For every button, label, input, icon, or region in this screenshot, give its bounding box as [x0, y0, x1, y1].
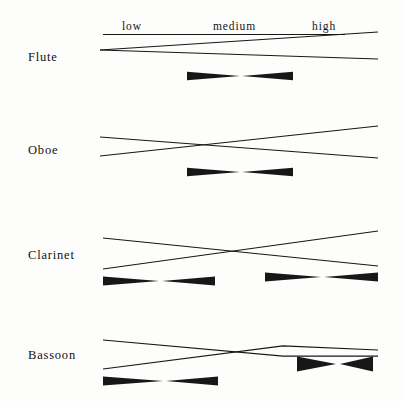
- woodwind-range-diagram: low medium high Flute Oboe: [0, 0, 403, 401]
- instrument-group-bassoon: Bassoon: [28, 340, 378, 385]
- register-header-high: high: [312, 20, 336, 33]
- clarinet-high-wedge-right: [324, 273, 378, 282]
- instrument-label-flute: Flute: [28, 50, 58, 64]
- clarinet-lower-envelope: [103, 231, 378, 269]
- register-header-low: low: [122, 20, 142, 32]
- clarinet-low-wedge-right: [162, 277, 215, 286]
- instrument-label-bassoon: Bassoon: [28, 348, 76, 362]
- instrument-group-oboe: Oboe: [28, 126, 378, 176]
- flute-bowtie-medium: [187, 72, 293, 80]
- flute-lower-envelope: [100, 50, 378, 59]
- register-header-group: low medium high: [103, 20, 345, 35]
- clarinet-upper-envelope: [103, 238, 378, 266]
- instrument-label-clarinet: Clarinet: [28, 248, 75, 262]
- oboe-upper-envelope: [100, 137, 378, 158]
- oboe-lower-envelope: [100, 126, 378, 156]
- bassoon-high-wedge-left: [297, 357, 336, 372]
- clarinet-low-wedge-left: [103, 277, 159, 286]
- register-header-medium: medium: [213, 20, 256, 32]
- bassoon-bowtie-high: [297, 357, 373, 372]
- bassoon-lower-envelope: [103, 346, 378, 369]
- clarinet-high-wedge-left: [265, 273, 321, 282]
- bassoon-low-wedge-left: [103, 377, 163, 386]
- bassoon-low-wedge-right: [166, 377, 218, 386]
- oboe-wedge-right: [242, 168, 293, 176]
- oboe-bowtie-medium: [187, 168, 293, 176]
- oboe-wedge-left: [187, 168, 240, 176]
- instrument-group-flute: Flute: [28, 32, 378, 80]
- clarinet-bowtie-high: [265, 273, 378, 282]
- flute-wedge-right: [242, 72, 293, 80]
- instrument-label-oboe: Oboe: [28, 143, 58, 157]
- bassoon-high-wedge-right: [340, 357, 373, 372]
- clarinet-bowtie-low: [103, 277, 215, 286]
- figure-canvas: low medium high Flute Oboe: [0, 0, 403, 401]
- flute-wedge-left: [187, 72, 240, 80]
- bassoon-bowtie-low: [103, 377, 218, 386]
- instrument-group-clarinet: Clarinet: [28, 231, 378, 285]
